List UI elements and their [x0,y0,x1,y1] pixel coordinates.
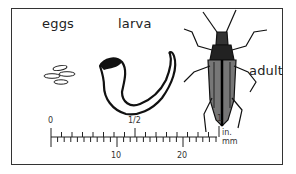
ruler-label-1: 1 [217,114,222,123]
illustration [0,0,296,174]
ruler-label-0: 0 [48,116,53,125]
scale-ruler [51,126,219,147]
unit-inches: in. [222,128,232,137]
ruler-label-half: 1/2 [128,116,141,125]
eggs-icon [44,65,75,85]
ruler-label-20mm: 20 [177,151,187,160]
larva-icon [100,52,175,114]
unit-mm: mm [222,137,238,146]
ruler-label-10mm: 10 [111,151,121,160]
weevil-icon [184,10,267,132]
